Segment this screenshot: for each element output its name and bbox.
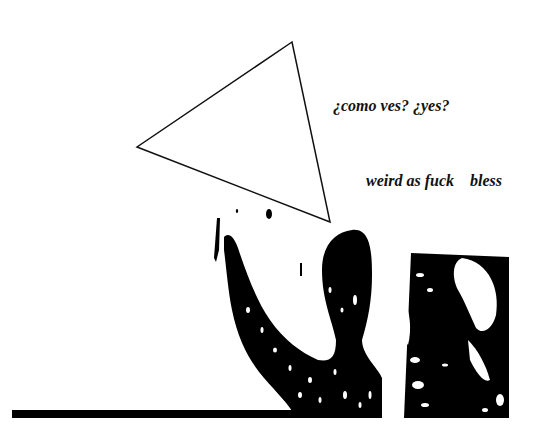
- artwork-canvas: [0, 0, 543, 446]
- ink-speck: [266, 209, 272, 219]
- ink-streak: [214, 218, 220, 262]
- high-contrast-figure-left: [224, 230, 382, 418]
- phrase-text: weird as fuck bless: [366, 172, 502, 190]
- ink-speck: [236, 209, 238, 213]
- high-contrast-photo-right: [403, 253, 509, 418]
- question-text: ¿como ves? ¿yes?: [333, 97, 449, 115]
- ink-streak: [300, 263, 302, 276]
- outline-triangle: [137, 42, 330, 222]
- horizontal-bar: [12, 410, 302, 418]
